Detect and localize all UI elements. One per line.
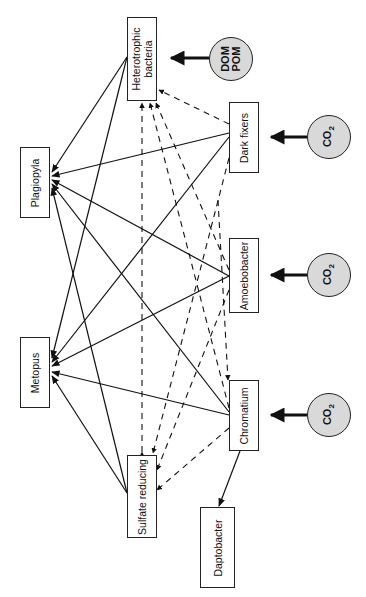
edge-amoebobacter-chromatium bbox=[218, 200, 228, 380]
node-label: Plagiopyla bbox=[29, 158, 41, 206]
node-label: Daptobacter bbox=[212, 519, 224, 576]
node-label-line1: Heterotrophic bbox=[130, 27, 142, 90]
node-plagiopyla: Plagiopyla bbox=[20, 147, 50, 218]
source-co2-chromatium: CO2 bbox=[307, 393, 351, 437]
edge-chromatium-sulfate bbox=[157, 428, 229, 490]
node-label: Sulfate reducing bbox=[136, 459, 148, 535]
edge-chromatium-heterotrophic bbox=[150, 103, 229, 408]
source-co2-dark-fixers: CO2 bbox=[307, 115, 351, 159]
node-sulfate-reducing: Sulfate reducing bbox=[127, 455, 157, 538]
edge-amoebobacter-plagiopyla bbox=[52, 180, 229, 276]
co2-subscript: 2 bbox=[327, 265, 336, 269]
source-label-line2: POM bbox=[231, 46, 242, 72]
node-daptobacter: Daptobacter bbox=[200, 507, 235, 588]
edge-heterotrophic-metopus bbox=[52, 57, 127, 358]
edge-amoebobacter-metopus bbox=[52, 276, 229, 366]
edge-sulfate-metopus bbox=[52, 376, 127, 493]
node-label-line2: bacteria bbox=[142, 27, 154, 90]
node-label: Metopus bbox=[29, 352, 41, 392]
node-amoebobacter: Amoebobacter bbox=[229, 238, 259, 313]
co2-label: CO bbox=[320, 409, 332, 426]
node-chromatium: Chromatium bbox=[229, 380, 259, 451]
edge-darkfixers-plagiopyla bbox=[52, 133, 229, 176]
node-dark-fixers: Dark fixers bbox=[229, 102, 259, 173]
source-co2-amoebobacter: CO2 bbox=[307, 253, 351, 297]
edge-heterotrophic-plagiopyla bbox=[52, 57, 127, 172]
co2-label: CO bbox=[320, 269, 332, 286]
co2-label: CO bbox=[320, 131, 332, 148]
edge-darkfixers-heterotrophic bbox=[159, 90, 229, 124]
food-web-edges bbox=[0, 0, 366, 597]
source-dom-pom: DOMPOM bbox=[209, 37, 253, 81]
edge-sulfate-plagiopyla bbox=[52, 188, 127, 493]
co2-subscript: 2 bbox=[327, 127, 336, 131]
node-heterotrophic-bacteria: Heterotrophicbacteria bbox=[127, 17, 157, 101]
edge-amoebobacter-sulfate bbox=[157, 290, 229, 470]
node-label: Dark fixers bbox=[238, 112, 250, 162]
edge-amoebobacter-heterotrophic bbox=[156, 103, 229, 270]
node-metopus: Metopus bbox=[20, 337, 50, 408]
edge-chromatium-daptobacter bbox=[219, 451, 240, 506]
node-label: Chromatium bbox=[238, 387, 250, 444]
co2-subscript: 2 bbox=[327, 405, 336, 409]
node-label: Amoebobacter bbox=[238, 241, 250, 309]
